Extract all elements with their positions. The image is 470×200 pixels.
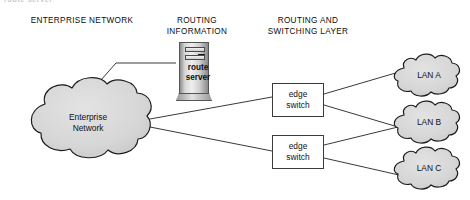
edge-switch-1-label: edge switch — [286, 89, 309, 111]
route-server-chassis: route server — [179, 42, 209, 95]
enterprise-network-cloud[interactable] — [31, 78, 151, 158]
lan-a-cloud[interactable] — [394, 54, 459, 96]
link-enterprise-to-edge-switch-2 — [150, 127, 272, 151]
lan-c-cloud[interactable] — [394, 147, 459, 189]
link-routeserver-to-enterprise — [101, 63, 176, 80]
link-edge-switch-1-to-lan-a — [324, 72, 399, 94]
link-edge-switch-2-to-lan-c — [324, 158, 399, 175]
network-diagram-canvas: route server — [0, 0, 470, 200]
lan-b-cloud[interactable] — [394, 101, 459, 143]
edge-switch-2-label: edge switch — [286, 141, 309, 163]
column-header-routing-information: ROUTING INFORMATION — [152, 16, 242, 37]
edge-switch-1[interactable]: edge switch — [272, 83, 324, 117]
route-server-label: route server — [180, 63, 216, 83]
route-server-drive-bay-icon — [185, 47, 205, 52]
link-edge-switch-1-to-lan-b — [324, 105, 398, 127]
route-server-node[interactable]: route server — [176, 42, 212, 103]
route-server-base — [176, 93, 212, 101]
column-header-routing-switching-layer: ROUTING AND SWITCHING LAYER — [248, 16, 368, 37]
edge-switch-2[interactable]: edge switch — [272, 135, 324, 169]
column-header-enterprise-network: ENTERPRISE NETWORK — [8, 16, 156, 27]
link-edge-switch-2-to-lan-b — [324, 127, 398, 145]
route-server-drive-bay-2-icon — [185, 55, 205, 60]
